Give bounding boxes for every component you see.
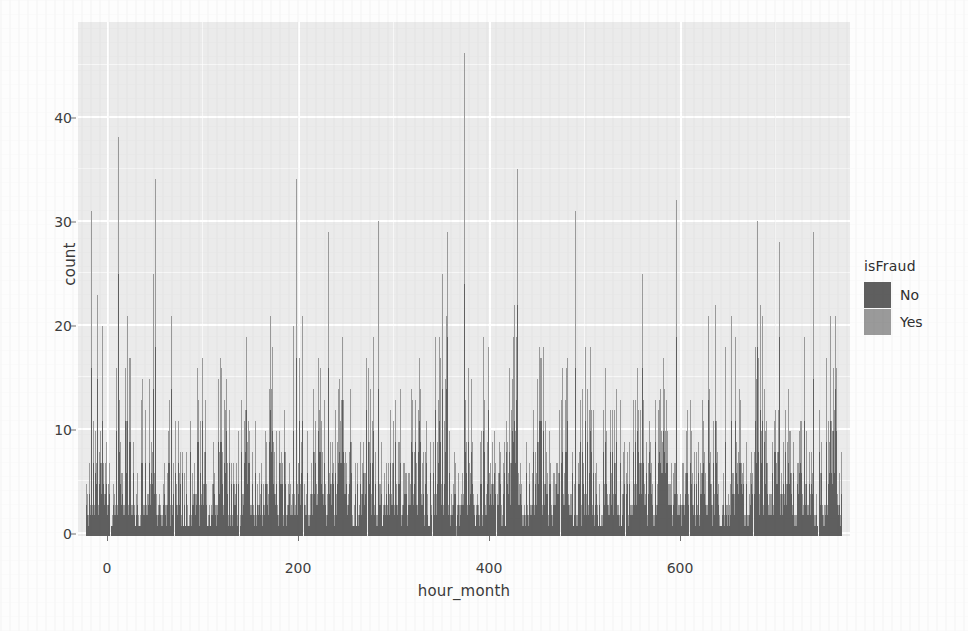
bar-segment-yes bbox=[514, 305, 515, 420]
bar-segment-yes bbox=[400, 389, 401, 462]
bar-segment-yes bbox=[740, 400, 741, 463]
bar-segment-yes bbox=[442, 274, 443, 389]
bar-segment-yes bbox=[420, 389, 421, 441]
bar-segment-yes bbox=[274, 452, 275, 494]
bar-segment-yes bbox=[91, 211, 92, 368]
bar-segment-yes bbox=[176, 484, 177, 505]
bar-segment-yes bbox=[477, 494, 478, 504]
bar-segment-yes bbox=[130, 358, 131, 442]
bar-segment-yes bbox=[806, 431, 807, 483]
bar-segment-yes bbox=[587, 389, 588, 441]
bar-segment-yes bbox=[435, 337, 436, 410]
bar-segment-yes bbox=[257, 484, 258, 505]
bar-segment-yes bbox=[743, 463, 744, 484]
bar-segment-yes bbox=[252, 452, 253, 483]
bar-segment-yes bbox=[711, 484, 712, 505]
bar-segment-yes bbox=[550, 463, 551, 484]
x-tick-mark bbox=[107, 536, 108, 541]
bar-segment-yes bbox=[715, 305, 716, 420]
bar-segment-yes bbox=[801, 421, 802, 473]
bar-segment-yes bbox=[164, 463, 165, 494]
bar-segment-yes bbox=[324, 400, 325, 463]
bar-segment-yes bbox=[464, 53, 465, 284]
y-tick-label: 20 bbox=[26, 318, 72, 334]
bar-segment-yes bbox=[504, 442, 505, 473]
bar-segment-yes bbox=[758, 358, 759, 452]
bar-segment-yes bbox=[580, 400, 581, 442]
bar-segment-yes bbox=[253, 505, 254, 515]
bar-segment-yes bbox=[638, 410, 639, 452]
legend-item-no[interactable]: No bbox=[864, 281, 964, 308]
bar-segment-no bbox=[813, 379, 814, 536]
bar-segment-yes bbox=[779, 242, 780, 336]
bar-segment-yes bbox=[343, 400, 344, 452]
bar-segment-yes bbox=[646, 442, 647, 473]
legend-item-yes[interactable]: Yes bbox=[864, 308, 964, 335]
bar-segment-yes bbox=[813, 232, 814, 379]
bar-segment-yes bbox=[238, 431, 239, 483]
bar-segment-yes bbox=[533, 410, 534, 452]
bar-segment-yes bbox=[106, 442, 107, 484]
bar-segment-yes bbox=[423, 452, 424, 494]
bar-segment-yes bbox=[762, 316, 763, 421]
bar-segment-yes bbox=[468, 368, 469, 441]
bar-segment-yes bbox=[694, 452, 695, 483]
bar-segment-no bbox=[575, 368, 576, 536]
bar-segment-yes bbox=[616, 389, 617, 441]
bar-segment-yes bbox=[227, 463, 228, 494]
bar-segment-yes bbox=[333, 463, 334, 484]
bar-segment-yes bbox=[285, 452, 286, 483]
bar-segment-yes bbox=[440, 358, 441, 442]
bar-segment-yes bbox=[416, 463, 417, 505]
bar-segment-yes bbox=[819, 410, 820, 452]
bar-segment-yes bbox=[375, 452, 376, 483]
bar-segment-yes bbox=[103, 463, 104, 484]
bar-segment-yes bbox=[186, 452, 187, 494]
bar-segment-yes bbox=[184, 473, 185, 504]
bar-segment-yes bbox=[509, 368, 510, 452]
bar-segment-yes bbox=[386, 463, 387, 494]
bar-segment-yes bbox=[415, 400, 416, 442]
bar-segment-yes bbox=[790, 431, 791, 473]
bar-segment-yes bbox=[680, 494, 681, 504]
bar-segment-yes bbox=[599, 484, 600, 505]
bar-segment-yes bbox=[567, 358, 568, 421]
bar-segment-yes bbox=[543, 347, 544, 431]
bar-segment-yes bbox=[180, 452, 181, 483]
bar-segment-yes bbox=[396, 484, 397, 505]
bar-segment-yes bbox=[547, 473, 548, 494]
y-tick-mark bbox=[71, 534, 76, 535]
bar-segment-yes bbox=[488, 347, 489, 410]
bar-segment-yes bbox=[255, 421, 256, 473]
bar-segment-yes bbox=[293, 326, 294, 431]
bar-segment-yes bbox=[261, 463, 262, 484]
bar-segment-yes bbox=[360, 442, 361, 484]
bar-segment-yes bbox=[568, 494, 569, 504]
bar-segment-yes bbox=[118, 137, 119, 273]
bar-segment-yes bbox=[484, 400, 485, 452]
bar-segment-yes bbox=[149, 379, 150, 463]
bar-segment-yes bbox=[427, 494, 428, 515]
bar-segment-yes bbox=[282, 463, 283, 484]
bar-segment-yes bbox=[246, 337, 247, 410]
bar-segment-yes bbox=[836, 368, 837, 431]
bar-segment-yes bbox=[231, 463, 232, 484]
bar-segment-yes bbox=[233, 463, 234, 484]
bar-segment-yes bbox=[187, 505, 188, 526]
bar-segment-yes bbox=[100, 431, 101, 462]
chart-figure: count 40 30 20 10 0 bbox=[0, 0, 968, 631]
bar-segment-yes bbox=[692, 473, 693, 504]
bar-segment-yes bbox=[299, 358, 300, 421]
bar-segment-yes bbox=[357, 463, 358, 484]
bar-segment-yes bbox=[473, 494, 474, 504]
bar-segment-yes bbox=[304, 484, 305, 505]
bar-segment-yes bbox=[363, 442, 364, 473]
bar-segment-yes bbox=[458, 473, 459, 504]
bar-segment-yes bbox=[593, 410, 594, 473]
bar-segment-yes bbox=[276, 431, 277, 483]
bar-segment-yes bbox=[390, 410, 391, 462]
bar-segment-yes bbox=[153, 274, 154, 389]
bar-segment-yes bbox=[537, 379, 538, 442]
bar-segment-yes bbox=[206, 484, 207, 505]
bar-segment-yes bbox=[822, 505, 823, 515]
